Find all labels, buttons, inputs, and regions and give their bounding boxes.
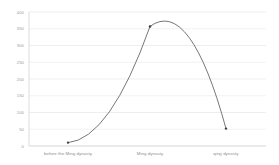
y-axis-tick-0: 0 <box>5 144 24 149</box>
y-axis-tick-100: 100 <box>5 110 24 115</box>
y-axis-tick-150: 150 <box>5 93 24 98</box>
y-axis-tick-50: 50 <box>5 127 24 132</box>
y-axis-tick-250: 250 <box>5 60 24 65</box>
y-axis-tick-400: 400 <box>5 10 24 15</box>
data-point-markers <box>67 25 227 144</box>
y-axis-tick-300: 300 <box>5 43 24 48</box>
data-line-series-1 <box>68 21 226 143</box>
chart-canvas <box>0 0 279 165</box>
data-point-marker <box>225 127 227 129</box>
data-point-marker <box>149 25 152 28</box>
data-point-marker <box>67 142 69 144</box>
line-chart: 400 350 300 250 200 150 100 50 0 before … <box>0 0 279 165</box>
x-axis-tick-before-ming-dynasty: before the Ming dynasty <box>24 151 112 157</box>
x-axis-tick-ming-dynasty: Ming dynasty <box>112 151 188 157</box>
gridlines <box>29 12 266 129</box>
y-axis-tick-200: 200 <box>5 77 24 82</box>
y-axis-tick-350: 350 <box>5 26 24 31</box>
x-axis-tick-qing-dynasty: qing dynasty <box>190 151 262 157</box>
